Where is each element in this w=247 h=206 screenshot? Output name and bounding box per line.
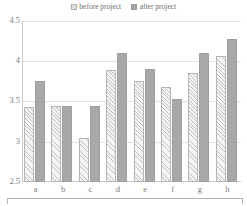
bar-group [214,21,241,182]
legend-label-after-project: after project [140,2,176,11]
bottom-rule [7,198,243,199]
bar-f-before[interactable] [161,87,171,182]
x-tick-b: b [49,184,76,195]
bar-c-before[interactable] [79,138,89,182]
bar-e-before[interactable] [134,81,144,182]
bar-d-after[interactable] [117,53,127,182]
bar-b-before[interactable] [51,106,61,182]
x-tick-f: f [159,184,186,195]
bar-e-after[interactable] [145,69,155,182]
hatched-square-icon [71,4,77,10]
bar-chart: before project after project 4.5 4 3.5 3… [0,0,247,206]
bar-a-before[interactable] [24,107,34,182]
legend-item-after-project[interactable]: after project [131,2,176,11]
bar-f-after[interactable] [172,99,182,182]
y-tick-4: 4 [0,56,20,65]
x-tick-a: a [22,184,49,195]
bottom-rule-left-cap [7,198,8,204]
bar-group [104,21,131,182]
bar-b-after[interactable] [62,106,72,182]
bar-group [186,21,213,182]
solid-square-icon [131,4,137,10]
bar-d-before[interactable] [106,70,116,182]
legend-label-before-project: before project [79,2,121,11]
y-tick-2.5: 2.5 [0,177,20,186]
x-tick-d: d [104,184,131,195]
bar-group [22,21,49,182]
bar-group [77,21,104,182]
bar-group [159,21,186,182]
y-tick-3.5: 3.5 [0,96,20,105]
bottom-rule-right-cap [242,198,243,204]
x-axis-labels: abcdefgh [22,184,241,197]
chart-legend: before project after project [0,0,247,13]
bar-g-before[interactable] [188,73,198,182]
bars-layer [22,21,241,182]
bar-h-after[interactable] [227,39,237,182]
bar-g-after[interactable] [199,53,209,182]
y-axis-labels: 4.5 4 3.5 3 2.5 [0,0,20,206]
legend-item-before-project[interactable]: before project [71,2,121,11]
bar-group [49,21,76,182]
y-tick-4.5: 4.5 [0,16,20,25]
bar-a-after[interactable] [35,81,45,182]
bar-c-after[interactable] [90,106,100,182]
x-tick-h: h [214,184,241,195]
x-tick-e: e [132,184,159,195]
x-tick-g: g [186,184,213,195]
y-tick-3: 3 [0,137,20,146]
bar-h-before[interactable] [216,56,226,182]
x-tick-c: c [77,184,104,195]
bar-group [132,21,159,182]
